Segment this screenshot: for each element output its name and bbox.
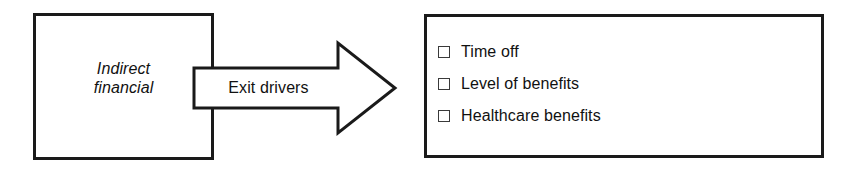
checkbox-empty-icon[interactable]	[438, 78, 450, 90]
source-box-label-line2: financial	[33, 78, 214, 97]
checkbox-empty-icon[interactable]	[438, 46, 450, 58]
list-item[interactable]: Time off	[438, 36, 808, 68]
checkbox-empty-icon[interactable]	[438, 110, 450, 122]
source-box-label-line1: Indirect	[33, 59, 214, 78]
list-item-label: Time off	[461, 43, 519, 61]
list-item[interactable]: Healthcare benefits	[438, 100, 808, 132]
list-item-label: Healthcare benefits	[461, 107, 601, 125]
diagram-canvas: Indirect financial Exit drivers Time off…	[0, 0, 856, 174]
list-item-label: Level of benefits	[461, 75, 579, 93]
arrow-label: Exit drivers	[196, 78, 341, 98]
list-item[interactable]: Level of benefits	[438, 68, 808, 100]
exit-drivers-item-list: Time off Level of benefits Healthcare be…	[438, 36, 808, 132]
source-box-label: Indirect financial	[33, 59, 214, 97]
